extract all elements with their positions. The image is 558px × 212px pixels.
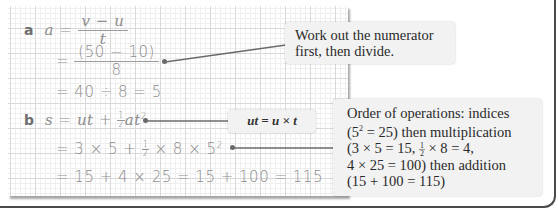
connector-dot-a: [162, 59, 167, 64]
callout-order-of-operations: Order of operations: indices (52 = 25) t…: [333, 99, 542, 196]
connector-dot-b1: [143, 118, 148, 123]
callout-numerator-first: Work out the numerator first, then divid…: [285, 22, 455, 64]
callout-ut-definition: ut = u × t: [228, 110, 316, 133]
connector-dot-b2: [230, 145, 235, 150]
